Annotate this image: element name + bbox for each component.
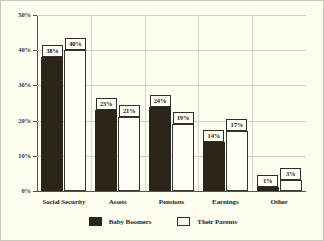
legend-label-their-parents: Their Parents [197,218,237,226]
bar-label-other-baby-boomers: 1% [257,175,278,187]
bar-pensions-their-parents [172,124,194,191]
y-tick-label-20%: 20% [0,117,31,124]
bar-earnings-baby-boomers [203,142,225,191]
category-separator [91,15,92,191]
gridline-0% [37,191,306,192]
bar-assets-their-parents [118,117,140,191]
y-tick-label-30%: 30% [0,81,31,88]
y-tick-label-0%: 0% [0,187,31,194]
bar-label-earnings-baby-boomers: 14% [203,130,224,142]
bar-label-pensions-their-parents: 19% [173,112,194,124]
plot-area: 38%40%23%21%24%19%14%17%1%3% [37,15,306,191]
bar-assets-baby-boomers [95,110,117,191]
legend-entry-their-parents: Their Parents [177,217,237,226]
legend-entry-baby-boomers: Baby Boomers [89,217,152,226]
bar-label-earnings-their-parents: 17% [226,119,247,131]
y-tick-label-10%: 10% [0,152,31,159]
bar-label-assets-baby-boomers: 23% [96,98,117,110]
bar-label-other-their-parents: 3% [280,168,301,180]
category-separator [145,15,146,191]
category-separator [252,15,253,191]
bar-social-security-baby-boomers [41,57,63,191]
y-tick-label-40%: 40% [0,46,31,53]
legend-swatch-filled-dark-swatch [89,217,102,226]
bar-social-security-their-parents [64,50,86,191]
gridline-50% [37,15,306,16]
category-separator [198,15,199,191]
bar-other-baby-boomers [257,187,279,191]
bar-label-pensions-baby-boomers: 24% [150,95,171,107]
x-tick-label-other: Other [234,198,324,206]
bar-label-social-security-baby-boomers: 38% [42,45,63,57]
bar-label-assets-their-parents: 21% [119,105,140,117]
bar-chart: 0%10%20%30%40%50% 38%40%23%21%24%19%14%1… [0,0,324,241]
bar-other-their-parents [280,180,302,191]
bar-earnings-their-parents [226,131,248,191]
bar-pensions-baby-boomers [149,107,171,191]
y-tick-label-50%: 50% [0,11,31,18]
bar-label-social-security-their-parents: 40% [65,38,86,50]
legend-swatch-hollow-white-swatch [177,217,190,226]
legend-label-baby-boomers: Baby Boomers [109,218,152,226]
chart-legend: Baby Boomers Their Parents [1,217,324,226]
